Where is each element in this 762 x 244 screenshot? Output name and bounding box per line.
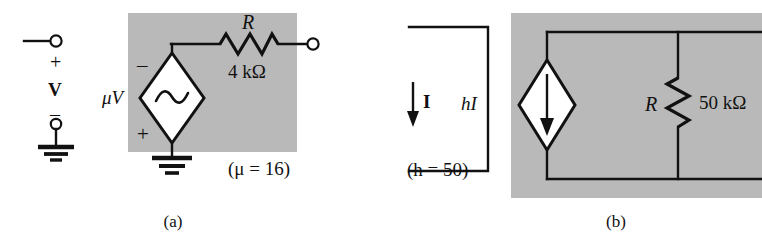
source-label-text-b: hI (461, 93, 477, 114)
current-label: I (423, 92, 430, 111)
resistor-a-value: 4 kΩ (228, 62, 266, 81)
source-plus-sign: + (137, 124, 149, 145)
figure-canvas: + V – – μV + R 4 kΩ (μ = 16) (a) (0, 0, 762, 244)
panel-a-annotation: (μ = 16) (228, 159, 290, 178)
resistor-b-zigzag (667, 78, 689, 127)
resistor-b-value: 50 kΩ (699, 93, 746, 112)
resistor-a-name: R (242, 12, 254, 32)
source-label-mu-v: μV (102, 88, 123, 107)
source-label-h-i: hI (461, 94, 477, 113)
panel-b-schematic (381, 0, 762, 244)
input-voltage-label: V (48, 80, 62, 99)
resistor-a-zigzag (220, 34, 278, 54)
current-arrow-head (407, 111, 419, 127)
input-terminal-top (50, 35, 61, 46)
panel-a: + V – – μV + R 4 kΩ (μ = 16) (a) (0, 0, 381, 244)
panel-a-caption: (a) (148, 212, 198, 232)
panel-b-annotation: (h = 50) (407, 160, 468, 179)
resistor-b-name: R (645, 94, 657, 114)
panel-b-caption: (b) (591, 212, 641, 232)
panel-b: I hI R 50 kΩ (h = 50) (b) (381, 0, 762, 244)
source-label-text: μV (102, 87, 123, 108)
output-terminal (307, 38, 318, 49)
input-plus-label: + (50, 52, 61, 72)
source-minus-sign: – (137, 55, 148, 76)
input-minus-label: – (50, 104, 60, 124)
